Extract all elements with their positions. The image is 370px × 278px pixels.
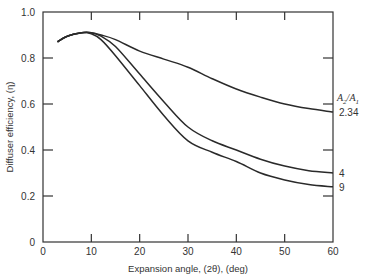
- x-tick-label: 60: [327, 246, 339, 257]
- curve-area-ratio-2-34: [58, 32, 334, 112]
- x-axis-title: Expansion angle, (2θ), (deg): [128, 263, 248, 274]
- svg-text:A2/A1: A2/A1: [336, 92, 359, 106]
- y-tick-label: 1.0: [21, 7, 35, 18]
- x-tick-label: 20: [134, 246, 146, 257]
- legend-title: A2/A1: [336, 92, 359, 106]
- series-label: 2.34: [339, 107, 359, 118]
- axis-ticks: 010203040506000.20.40.60.81.0: [21, 7, 339, 258]
- y-tick-label: 0.6: [21, 99, 35, 110]
- series-label: 4: [339, 168, 345, 179]
- series-label: 9: [339, 182, 345, 193]
- x-tick-label: 30: [182, 246, 194, 257]
- curve-area-ratio-4: [58, 32, 334, 173]
- y-axis-title: Diffuser efficiency, (η): [4, 82, 15, 173]
- series-curves: [58, 32, 334, 187]
- y-tick-label: 0.8: [21, 53, 35, 64]
- x-tick-label: 40: [231, 246, 243, 257]
- x-tick-label: 50: [279, 246, 291, 257]
- efficiency-chart: 010203040506000.20.40.60.81.0 2.3449 Exp…: [0, 0, 370, 278]
- y-tick-label: 0.4: [21, 145, 35, 156]
- series-labels: 2.3449: [339, 107, 359, 193]
- legend-sub-1: 1: [356, 98, 360, 106]
- curve-area-ratio-9: [58, 33, 334, 187]
- x-tick-label: 10: [86, 246, 98, 257]
- y-tick-label: 0: [29, 237, 35, 248]
- y-tick-label: 0.2: [21, 191, 35, 202]
- x-tick-label: 0: [40, 246, 46, 257]
